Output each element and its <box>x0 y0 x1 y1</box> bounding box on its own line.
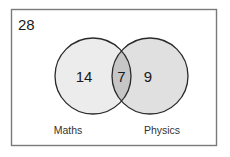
universal-total: 28 <box>18 16 35 33</box>
maths-only-count: 14 <box>76 68 93 85</box>
intersection-count: 7 <box>117 68 125 85</box>
physics-label: Physics <box>144 124 180 136</box>
maths-label: Maths <box>54 124 83 136</box>
physics-only-count: 9 <box>144 68 152 85</box>
venn-diagram: 28 14 7 9 Maths Physics <box>0 0 230 157</box>
